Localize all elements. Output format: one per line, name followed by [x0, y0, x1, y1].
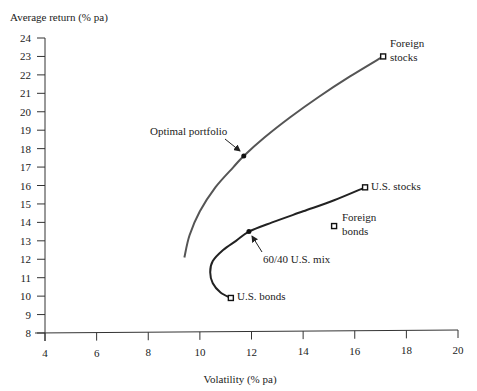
x-axis-label: Volatility (% pa): [203, 373, 276, 386]
y-axis-label: Average return (% pa): [10, 11, 108, 24]
y-tick-label: 16: [20, 180, 32, 192]
us-stocks-label: U.S. stocks: [371, 180, 421, 192]
x-tick-label: 6: [94, 347, 100, 359]
x-tick-label: 12: [246, 346, 257, 358]
y-tick-label: 18: [20, 143, 32, 155]
x-tick-label: 14: [298, 345, 310, 357]
us-frontier-line: [210, 187, 365, 298]
y-tick-label: 20: [20, 106, 32, 118]
y-tick-label: 15: [20, 198, 32, 210]
u-s-stocks-marker: [363, 185, 368, 190]
foreign-stocks-label: Foreign: [390, 37, 425, 49]
foreign-stocks-label: stocks: [390, 51, 418, 63]
x-tick-label: 20: [453, 344, 465, 356]
60-40-u-s-mix-dot: [246, 229, 251, 234]
optimal-portfolio-arrow: [225, 139, 240, 151]
x-axis-line: [35, 330, 458, 333]
y-tick-label: 13: [20, 235, 32, 247]
optimal-portfolio-label: Optimal portfolio: [150, 125, 228, 137]
60-40-mix-arrow: [252, 236, 262, 252]
y-tick-label: 21: [20, 87, 31, 99]
y-tick-label: 14: [20, 216, 32, 228]
axes: 8910111213141516171819202122232446810121…: [20, 32, 464, 359]
optimal-portfolio-dot: [241, 154, 246, 159]
us-bonds-label: U.S. bonds: [237, 290, 286, 302]
annotations: ForeignstocksU.S. stocksForeignbondsU.S.…: [150, 37, 425, 302]
y-tick-label: 11: [20, 272, 31, 284]
y-tick-label: 24: [20, 32, 32, 44]
efficient-frontier-chart: Average return (% pa) 891011121314151617…: [0, 0, 477, 391]
x-tick-label: 8: [146, 346, 152, 358]
y-tick-label: 23: [20, 50, 32, 62]
foreign-bonds-label: bonds: [342, 225, 368, 237]
x-tick-label: 10: [194, 346, 206, 358]
x-tick-label: 18: [401, 344, 413, 356]
y-tick-label: 22: [20, 69, 31, 81]
y-tick-label: 17: [20, 161, 32, 173]
foreign-stocks-marker: [381, 54, 386, 59]
x-tick-label: 16: [349, 345, 361, 357]
foreign-bonds-label: Foreign: [342, 211, 377, 223]
y-tick-label: 8: [26, 327, 32, 339]
foreign-bonds-marker: [332, 224, 337, 229]
u-s-bonds-marker: [228, 295, 233, 300]
y-tick-label: 12: [20, 253, 31, 265]
y-tick-label: 19: [20, 124, 32, 136]
x-tick-label: 4: [42, 347, 48, 359]
y-tick-label: 10: [20, 290, 32, 302]
60-40-us-mix-label: 60/40 U.S. mix: [263, 253, 331, 265]
y-tick-label: 9: [26, 309, 32, 321]
